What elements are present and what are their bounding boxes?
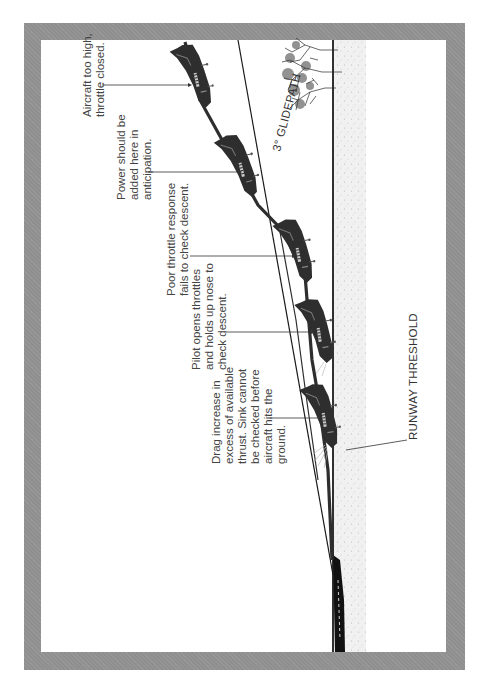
annotation-power-should-be-added: Power should be added here in anticipati… — [115, 114, 153, 200]
svg-text:and holds up nose to: and holds up nose to — [203, 263, 215, 370]
annotation-poor-throttle-response: Poor throttle response fails to check de… — [165, 183, 190, 296]
svg-text:ground.: ground. — [275, 425, 287, 464]
diagram-stage: 3° GLIDEPATH RUNWAY THRESHOLD Aircraft t… — [0, 0, 489, 691]
svg-text:Drag increase in: Drag increase in — [210, 380, 222, 464]
svg-text:throttle closed.: throttle closed. — [94, 42, 106, 117]
svg-text:Power should be: Power should be — [115, 114, 127, 200]
annotation-pilot-opens-throttles: Pilot opens throttles and holds up nose … — [190, 263, 228, 370]
svg-text:Poor throttle response: Poor throttle response — [165, 183, 177, 296]
annotation-drag-increase: Drag increase in excess of available thr… — [210, 367, 287, 464]
aircraft-1-icon — [169, 40, 218, 112]
svg-text:excess of available: excess of available — [223, 367, 235, 464]
svg-text:aircraft hits the: aircraft hits the — [262, 389, 274, 464]
svg-text:added here in: added here in — [128, 130, 140, 200]
runway-threshold-label: RUNWAY THRESHOLD — [407, 313, 419, 440]
svg-text:be checked before: be checked before — [249, 369, 261, 464]
svg-text:fails to check descent.: fails to check descent. — [178, 183, 190, 296]
svg-text:anticipation.: anticipation. — [141, 139, 153, 200]
svg-text:check descent.: check descent. — [216, 293, 228, 370]
diagram-canvas: 3° GLIDEPATH RUNWAY THRESHOLD Aircraft t… — [0, 0, 489, 691]
svg-text:Aircraft too high,: Aircraft too high, — [81, 33, 93, 117]
annotation-aircraft-too-high: Aircraft too high, throttle closed. — [81, 33, 106, 117]
aircraft-3-icon — [272, 216, 319, 287]
glidepath-label: 3° GLIDEPATH — [270, 72, 302, 152]
svg-text:thrust. Sink cannot: thrust. Sink cannot — [236, 368, 248, 464]
svg-text:Pilot opens throttles: Pilot opens throttles — [190, 269, 202, 370]
